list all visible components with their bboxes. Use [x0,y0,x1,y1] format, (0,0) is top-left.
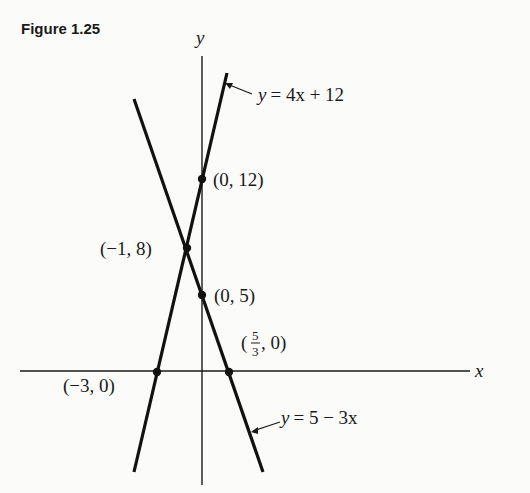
point-label-neg3-0: (−3, 0) [63,375,115,397]
svg-text:, 0): , 0) [261,332,286,354]
point-label-0-5: (0, 5) [214,285,255,307]
point-0-12 [198,175,206,183]
svg-text:5: 5 [252,328,259,343]
point-label-0-12: (0, 12) [213,169,264,191]
line-label-5-minus-3x: y= 5 − 3x [279,407,358,428]
line-label-4x-plus-12: y= 4x + 12 [256,84,344,105]
point-5-3-0 [225,368,233,376]
point-0-5 [198,291,206,299]
y-axis-label: y [194,27,205,48]
point-neg3-0 [153,368,161,376]
svg-text:(: ( [241,332,247,354]
line-4x-plus-12 [134,73,227,472]
svg-text:3: 3 [252,344,259,359]
point-label-neg1-8: (−1, 8) [100,238,152,260]
x-axis-label: x [474,360,484,381]
arrow-icon [225,83,252,94]
line-graph: x y y= 4x + 12 y= 5 − 3x (0, 12) (−1, 8)… [0,0,530,493]
arrow-icon [251,422,280,434]
point-label-5-3-0: ( 5 3 , 0) [241,328,286,359]
point-neg1-8 [183,244,191,252]
